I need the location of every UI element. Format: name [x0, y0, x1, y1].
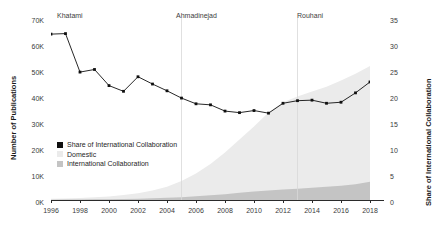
legend-swatch-international-icon — [57, 161, 63, 167]
y-tick-left-2: 20K — [18, 147, 44, 154]
x-axis-line — [51, 200, 371, 201]
legend-label-share: Share of International Collaboration — [67, 141, 177, 148]
y-tick-right-6: 30 — [390, 43, 406, 50]
y-axis-title-right: Share of International Collaboration — [424, 78, 433, 206]
x-tick-2012 — [283, 200, 284, 203]
x-tick-2014 — [312, 200, 313, 203]
data-point — [282, 102, 285, 105]
data-point — [122, 90, 125, 93]
x-tick-2006 — [196, 200, 197, 203]
x-tick-2004 — [167, 200, 168, 203]
legend-swatch-share-icon — [57, 142, 63, 148]
plot-area — [51, 18, 370, 200]
x-tick-label-2002: 2002 — [123, 207, 153, 214]
data-point — [51, 33, 52, 36]
data-point — [296, 99, 299, 102]
y-axis-title-left: Number of Publications — [9, 76, 18, 160]
data-point — [108, 84, 111, 87]
y-tick-left-1: 10K — [18, 173, 44, 180]
data-point — [195, 102, 198, 105]
y-tick-right-0: 0 — [390, 199, 406, 206]
x-tick-label-2014: 2014 — [297, 207, 327, 214]
data-point — [325, 102, 328, 105]
legend-item-domestic: Domestic — [57, 150, 177, 160]
x-tick-label-2018: 2018 — [355, 207, 385, 214]
y-tick-left-6: 60K — [18, 43, 44, 50]
x-tick-label-2012: 2012 — [268, 207, 298, 214]
data-point — [64, 32, 67, 35]
y-tick-left-5: 50K — [18, 69, 44, 76]
x-tick-label-2016: 2016 — [326, 207, 356, 214]
y-tick-left-0: 0K — [18, 199, 44, 206]
y-tick-right-5: 25 — [390, 69, 406, 76]
data-point — [369, 81, 370, 84]
data-point — [224, 110, 227, 113]
x-tick-1996 — [51, 200, 52, 203]
y-tick-right-1: 5 — [390, 173, 406, 180]
data-point — [93, 68, 96, 71]
x-tick-label-2004: 2004 — [152, 207, 182, 214]
data-point — [253, 109, 256, 112]
x-tick-label-2010: 2010 — [239, 207, 269, 214]
data-point — [238, 111, 241, 114]
x-tick-2016 — [341, 200, 342, 203]
data-point — [209, 103, 212, 106]
x-tick-label-2006: 2006 — [181, 207, 211, 214]
chart-svg — [51, 18, 370, 200]
data-point — [311, 99, 314, 102]
legend-item-share: Share of International Collaboration — [57, 140, 177, 150]
chart-legend: Share of International Collaboration Dom… — [57, 140, 177, 169]
x-tick-1998 — [80, 200, 81, 203]
legend-label-domestic: Domestic — [67, 151, 96, 158]
data-point — [79, 71, 82, 74]
y-tick-right-7: 35 — [390, 17, 406, 24]
y-tick-left-4: 40K — [18, 95, 44, 102]
y-tick-left-7: 70K — [18, 17, 44, 24]
y-tick-left-3: 30K — [18, 121, 44, 128]
y-tick-right-2: 10 — [390, 147, 406, 154]
legend-item-international: International Collaboration — [57, 159, 177, 169]
data-point — [340, 101, 343, 104]
x-tick-2010 — [254, 200, 255, 203]
data-point — [137, 75, 140, 78]
x-tick-label-1996: 1996 — [36, 207, 66, 214]
right-axis-stub — [370, 200, 384, 201]
x-tick-label-2000: 2000 — [94, 207, 124, 214]
y-tick-right-3: 15 — [390, 121, 406, 128]
x-tick-label-1998: 1998 — [65, 207, 95, 214]
data-point — [180, 97, 183, 100]
y-tick-right-4: 20 — [390, 95, 406, 102]
x-tick-2000 — [109, 200, 110, 203]
legend-swatch-domestic-icon — [57, 151, 63, 157]
data-point — [267, 112, 270, 115]
x-tick-2002 — [138, 200, 139, 203]
legend-label-international: International Collaboration — [67, 160, 149, 167]
data-point — [151, 83, 154, 86]
x-tick-label-2008: 2008 — [210, 207, 240, 214]
area-domestic — [51, 66, 370, 200]
chart-container: Number of Publications Share of Internat… — [0, 0, 433, 235]
data-point — [354, 91, 357, 94]
x-tick-2008 — [225, 200, 226, 203]
data-point — [166, 89, 169, 92]
